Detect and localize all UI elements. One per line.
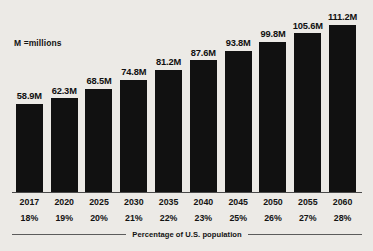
bar-rect (225, 51, 252, 192)
x-axis-tick-label: 2030 (116, 197, 151, 207)
x-axis-tick-label: 2025 (82, 197, 117, 207)
bar-rect (190, 60, 217, 192)
bar-group: 99.8M (256, 8, 291, 192)
bar-group: 74.8M (116, 8, 151, 192)
bar-rect (85, 89, 112, 192)
bar-value-label: 81.2M (156, 58, 181, 67)
bar-rect (329, 25, 356, 192)
x-axis-tick-label: 2060 (325, 197, 360, 207)
bar-value-label: 58.9M (17, 92, 42, 101)
plot-area: 58.9M 62.3M 68.5M 74.8M 81.2M 87.6M (12, 8, 360, 192)
percentage-label: 20% (82, 213, 117, 223)
percentage-label: 18% (12, 213, 47, 223)
bar-value-label: 62.3M (52, 87, 77, 96)
x-axis-tick-label: 2045 (221, 197, 256, 207)
bar-group: 111.2M (325, 8, 360, 192)
bar-group: 93.8M (221, 8, 256, 192)
bar-value-label: 99.8M (260, 30, 285, 39)
bar-group: 105.6M (290, 8, 325, 192)
x-axis-line (12, 192, 362, 193)
bar-rect (120, 80, 147, 192)
percentage-label: 21% (116, 213, 151, 223)
caption-text: Percentage of U.S. population (132, 230, 241, 239)
caption-rule-left (12, 234, 126, 235)
caption-rule-right (248, 234, 362, 235)
bar-group: 81.2M (151, 8, 186, 192)
x-axis-percentage-labels: 18% 19% 20% 21% 22% 23% 25% 26% 27% 28% (12, 213, 360, 223)
bar-group: 62.3M (47, 8, 82, 192)
percentage-label: 26% (256, 213, 291, 223)
bar-value-label: 68.5M (86, 77, 111, 86)
population-bar-chart: M =millions 58.9M 62.3M 68.5M 74.8M 81.2… (0, 0, 373, 251)
bar-rect (16, 104, 43, 193)
x-axis-year-labels: 2017 2020 2025 2030 2035 2040 2045 2050 … (12, 197, 360, 207)
bar-group: 87.6M (186, 8, 221, 192)
x-axis-tick-label: 2050 (256, 197, 291, 207)
footer-caption: Percentage of U.S. population (12, 230, 362, 239)
bar-value-label: 111.2M (328, 13, 357, 22)
bar-group: 68.5M (82, 8, 117, 192)
percentage-label: 23% (186, 213, 221, 223)
bar-rect (155, 70, 182, 192)
percentage-label: 19% (47, 213, 82, 223)
percentage-label: 28% (325, 213, 360, 223)
x-axis-tick-label: 2017 (12, 197, 47, 207)
x-axis-tick-label: 2055 (290, 197, 325, 207)
percentage-label: 25% (221, 213, 256, 223)
bar-value-label: 93.8M (226, 39, 251, 48)
bar-series: 58.9M 62.3M 68.5M 74.8M 81.2M 87.6M (12, 8, 360, 192)
x-axis-tick-label: 2040 (186, 197, 221, 207)
bar-rect (51, 98, 78, 192)
bar-value-label: 87.6M (191, 49, 216, 58)
bar-rect (294, 33, 321, 192)
bar-value-label: 74.8M (121, 68, 146, 77)
bar-value-label: 105.6M (293, 22, 323, 31)
percentage-label: 22% (151, 213, 186, 223)
bar-group: 58.9M (12, 8, 47, 192)
percentage-label: 27% (290, 213, 325, 223)
x-axis-tick-label: 2020 (47, 197, 82, 207)
bar-rect (259, 42, 286, 192)
x-axis-tick-label: 2035 (151, 197, 186, 207)
